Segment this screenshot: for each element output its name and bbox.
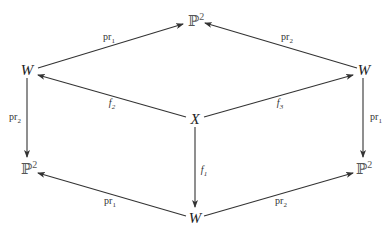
label-right-to-top: pr2 bbox=[281, 31, 293, 45]
node-bottom-right-p2: ℙ2 bbox=[356, 159, 372, 178]
label-center-to-left: f2 bbox=[109, 97, 115, 111]
label-left-to-bottom-left: pr2 bbox=[9, 111, 21, 125]
node-top-p2: ℙ2 bbox=[188, 11, 204, 30]
label-right-to-bottom-right: pr1 bbox=[370, 111, 382, 125]
label-left-to-top: pr1 bbox=[103, 31, 115, 45]
node-center-x: X bbox=[190, 111, 199, 128]
node-bottom-left-p2: ℙ2 bbox=[21, 159, 37, 178]
label-bottom-to-bottom-right: pr2 bbox=[275, 195, 287, 209]
label-center-to-bottom: f1 bbox=[201, 164, 207, 178]
arrow-right-to-top bbox=[205, 23, 357, 68]
label-center-to-right: f3 bbox=[277, 97, 283, 111]
node-bottom-w: W bbox=[189, 210, 202, 227]
node-left-w: W bbox=[21, 62, 34, 79]
label-bottom-to-bottom-left: pr1 bbox=[104, 195, 116, 209]
node-right-w: W bbox=[358, 62, 371, 79]
